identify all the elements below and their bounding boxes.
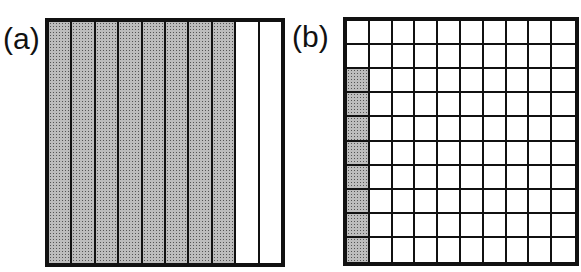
grid-cell xyxy=(552,142,575,166)
grid-cell xyxy=(529,142,552,166)
grid-cell xyxy=(438,69,461,93)
grid-cell xyxy=(393,214,416,238)
grid-cell xyxy=(393,190,416,214)
grid-cell xyxy=(507,166,530,190)
grid-cell xyxy=(461,142,484,166)
grid-cell xyxy=(393,117,416,141)
grid-cell xyxy=(552,93,575,117)
grid-cell xyxy=(484,93,507,117)
grid-cell xyxy=(393,45,416,69)
shaded-grid-cell xyxy=(347,69,370,93)
panel-a-strip-model xyxy=(45,18,285,267)
grid-cell xyxy=(461,117,484,141)
grid-cell xyxy=(415,69,438,93)
grid-cell xyxy=(529,21,552,45)
grid-cell xyxy=(461,166,484,190)
shaded-grid-cell xyxy=(347,166,370,190)
grid-cell xyxy=(393,166,416,190)
grid-cell xyxy=(370,214,393,238)
grid-cell xyxy=(484,214,507,238)
grid-cell xyxy=(484,21,507,45)
grid-cell xyxy=(347,45,370,69)
grid-cell xyxy=(461,21,484,45)
grid-cell xyxy=(415,238,438,262)
grid-cell xyxy=(507,238,530,262)
panel-b-hundred-grid xyxy=(343,17,579,266)
shaded-strip xyxy=(49,22,72,263)
grid-cell xyxy=(552,238,575,262)
grid-cell xyxy=(461,238,484,262)
grid-cell xyxy=(438,190,461,214)
grid-cell xyxy=(529,45,552,69)
grid-cell xyxy=(393,238,416,262)
shaded-strip xyxy=(72,22,95,263)
grid-cell xyxy=(552,69,575,93)
shaded-grid-cell xyxy=(347,93,370,117)
grid-cell xyxy=(507,214,530,238)
panel-a-label: (a) xyxy=(3,24,40,54)
grid-cell xyxy=(415,166,438,190)
grid-cell xyxy=(370,142,393,166)
unshaded-strip xyxy=(260,22,281,263)
grid-cell xyxy=(552,21,575,45)
unshaded-strip xyxy=(236,22,259,263)
shaded-strip xyxy=(213,22,236,263)
shaded-strip xyxy=(96,22,119,263)
grid-cell xyxy=(415,214,438,238)
grid-cell xyxy=(370,190,393,214)
grid-cell xyxy=(484,238,507,262)
grid-cell xyxy=(438,21,461,45)
grid-cell xyxy=(461,190,484,214)
grid-cell xyxy=(370,93,393,117)
grid-cell xyxy=(507,45,530,69)
grid-cell xyxy=(438,142,461,166)
grid-cell xyxy=(438,214,461,238)
panel-b-label: (b) xyxy=(292,22,329,52)
grid-cell xyxy=(370,117,393,141)
grid-cell xyxy=(438,45,461,69)
grid-cell xyxy=(484,166,507,190)
grid-cell xyxy=(415,117,438,141)
grid-cell xyxy=(370,45,393,69)
grid-cell xyxy=(415,21,438,45)
grid-cell xyxy=(507,93,530,117)
grid-cell xyxy=(461,214,484,238)
grid-cell xyxy=(529,117,552,141)
grid-cell xyxy=(370,238,393,262)
grid-cell xyxy=(529,69,552,93)
grid-cell xyxy=(438,166,461,190)
shaded-strip xyxy=(119,22,142,263)
grid-cell xyxy=(507,117,530,141)
shaded-grid-cell xyxy=(347,214,370,238)
shaded-grid-cell xyxy=(347,142,370,166)
grid-cell xyxy=(370,166,393,190)
shaded-grid-cell xyxy=(347,238,370,262)
grid-cell xyxy=(507,21,530,45)
grid-cell xyxy=(529,190,552,214)
grid-cell xyxy=(438,238,461,262)
grid-cell xyxy=(484,45,507,69)
grid-cell xyxy=(529,238,552,262)
shaded-strip xyxy=(166,22,189,263)
grid-cell xyxy=(507,190,530,214)
grid-cell xyxy=(370,69,393,93)
grid-cell xyxy=(415,142,438,166)
grid-cell xyxy=(461,45,484,69)
grid-cell xyxy=(415,93,438,117)
grid-cell xyxy=(552,190,575,214)
grid-cell xyxy=(552,214,575,238)
grid-cell xyxy=(484,117,507,141)
grid-cell xyxy=(529,214,552,238)
grid-cell xyxy=(529,93,552,117)
grid-cell xyxy=(529,166,552,190)
grid-cell xyxy=(507,69,530,93)
grid-cell xyxy=(393,69,416,93)
grid-cell xyxy=(415,190,438,214)
shaded-strip xyxy=(189,22,212,263)
grid-cell xyxy=(484,69,507,93)
grid-cell xyxy=(370,21,393,45)
grid-cell xyxy=(484,142,507,166)
shaded-strip xyxy=(143,22,166,263)
grid-cell xyxy=(461,69,484,93)
grid-cell xyxy=(552,117,575,141)
